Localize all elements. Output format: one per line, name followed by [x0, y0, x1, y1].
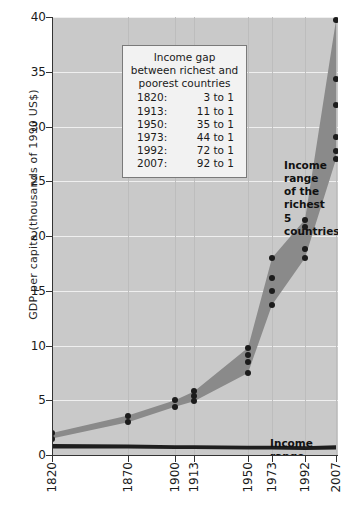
data-point-2007 — [333, 17, 338, 23]
x-tick-label-1992: 1992 — [298, 462, 312, 493]
y-tick-mark-5 — [46, 400, 52, 401]
legend-row-year: 1973: — [129, 131, 181, 144]
legend-row-year: 1992: — [129, 144, 181, 157]
legend-title-line-3: poorest countries — [129, 77, 240, 90]
data-point-1973 — [269, 288, 275, 294]
legend-row: 1992:72 to 1 — [129, 144, 240, 157]
y-tick-mark-20 — [46, 236, 52, 237]
data-point-2007 — [333, 76, 338, 82]
legend-row: 1950:35 to 1 — [129, 118, 240, 131]
legend-row-year: 2007: — [129, 157, 181, 170]
legend-title: Income gap between richest and poorest c… — [129, 51, 240, 89]
legend-row-gap: 92 to 1 — [181, 157, 240, 170]
data-point-1992 — [302, 255, 308, 261]
chart-figure: GDP per capita (thousands of 1990 US$) I… — [0, 0, 354, 515]
y-tick-label-35: 35 — [0, 65, 46, 79]
legend-row: 2007:92 to 1 — [129, 157, 240, 170]
data-point-1973 — [269, 255, 275, 261]
y-tick-mark-40 — [46, 17, 52, 18]
data-point-2007 — [333, 134, 338, 140]
legend-row: 1913:11 to 1 — [129, 105, 240, 118]
x-tick-label-1913: 1913 — [187, 462, 201, 493]
data-point-1900 — [172, 404, 178, 410]
y-axis-line — [52, 17, 53, 455]
data-point-1950 — [245, 359, 251, 365]
legend-row-year: 1820: — [129, 91, 181, 104]
x-axis-line — [52, 455, 338, 456]
plot-area: Income range of the richest 5 countries … — [52, 17, 338, 455]
y-tick-label-30: 30 — [0, 120, 46, 134]
annotation-richest: Income range of the richest 5 countries — [284, 159, 338, 238]
legend-row-gap: 35 to 1 — [181, 118, 240, 131]
annotation-poorest: Income range of the poorest countries — [270, 437, 338, 455]
legend-row: 1973:44 to 1 — [129, 131, 240, 144]
x-tick-label-1950: 1950 — [241, 462, 255, 493]
y-tick-label-40: 40 — [0, 10, 46, 24]
legend-row-year: 1950: — [129, 118, 181, 131]
data-point-1870 — [125, 419, 131, 425]
x-tick-label-1870: 1870 — [121, 462, 135, 493]
x-tick-label-2007: 2007 — [329, 462, 343, 493]
legend-table: 1820:3 to 11913:11 to 11950:35 to 11973:… — [129, 91, 240, 170]
legend-title-line-2: between richest and — [129, 64, 240, 77]
y-tick-label-0: 0 — [0, 448, 46, 462]
y-tick-label-25: 25 — [0, 174, 46, 188]
data-point-1992 — [302, 246, 308, 252]
data-point-1900 — [172, 397, 178, 403]
data-point-1973 — [269, 302, 275, 308]
y-tick-mark-25 — [46, 181, 52, 182]
data-point-1950 — [245, 352, 251, 358]
y-tick-mark-10 — [46, 346, 52, 347]
y-tick-mark-30 — [46, 127, 52, 128]
data-point-2007 — [333, 102, 338, 108]
y-tick-mark-35 — [46, 72, 52, 73]
data-point-1870 — [125, 413, 131, 419]
data-point-1950 — [245, 370, 251, 376]
x-tick-label-1900: 1900 — [168, 462, 182, 493]
x-tick-label-1973: 1973 — [265, 462, 279, 493]
legend-row-gap: 3 to 1 — [181, 91, 240, 104]
y-tick-label-5: 5 — [0, 393, 46, 407]
legend-row-gap: 11 to 1 — [181, 105, 240, 118]
legend-row-gap: 44 to 1 — [181, 131, 240, 144]
data-point-1973 — [269, 275, 275, 281]
data-point-1913 — [191, 398, 197, 404]
x-tick-label-1820: 1820 — [45, 462, 59, 493]
y-tick-label-10: 10 — [0, 339, 46, 353]
data-point-1950 — [245, 345, 251, 351]
legend-title-line-1: Income gap — [129, 51, 240, 64]
data-point-2007 — [333, 148, 338, 154]
legend-row-year: 1913: — [129, 105, 181, 118]
legend-row-gap: 72 to 1 — [181, 144, 240, 157]
y-tick-label-20: 20 — [0, 229, 46, 243]
y-tick-mark-15 — [46, 291, 52, 292]
income-gap-legend-box: Income gap between richest and poorest c… — [122, 45, 247, 178]
y-tick-label-15: 15 — [0, 284, 46, 298]
legend-row: 1820:3 to 1 — [129, 91, 240, 104]
